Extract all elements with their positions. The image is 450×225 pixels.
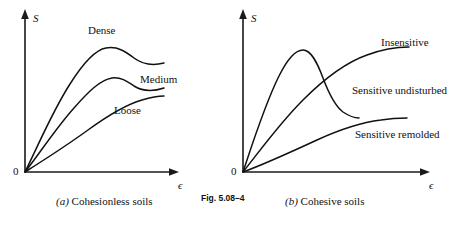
panel-a-caption-letter: (a): [56, 195, 69, 207]
curve-label-sensitive-undisturbed: Sensitive undisturbed: [352, 85, 447, 96]
curve-loose: [25, 96, 164, 172]
panel-a-caption: (a) Cohesionless soils: [56, 196, 153, 207]
panel-b-caption-text: Cohesive soils: [301, 195, 365, 207]
figure-number-label: Fig. 5.08–4: [201, 194, 244, 203]
x-axis-arrowhead: [420, 168, 430, 176]
y-axis-label: S: [33, 13, 39, 24]
panel-b-plot: [225, 0, 450, 225]
panel-cohesive-soils: S ϵ 0 Insensitive Sensitive undisturbed …: [225, 0, 450, 225]
curve-label-sensitive-remolded: Sensitive remolded: [355, 129, 440, 140]
x-axis-arrowhead: [169, 168, 179, 176]
x-axis-label: ϵ: [429, 180, 433, 191]
curve-label-medium: Medium: [140, 74, 177, 85]
panel-cohesionless-soils: S ϵ 0 Dense Medium Loose (a) Cohesionles…: [0, 0, 225, 225]
x-axis-label: ϵ: [178, 180, 182, 191]
panel-b-caption-letter: (b): [285, 195, 298, 207]
origin-label: 0: [13, 166, 19, 177]
curve-insensitive: [243, 47, 409, 172]
y-axis-arrowhead: [21, 9, 29, 19]
origin-label: 0: [231, 166, 237, 177]
panel-b-caption: (b) Cohesive soils: [285, 196, 364, 207]
curve-dense: [25, 48, 164, 172]
y-axis-label: S: [251, 13, 257, 24]
curve-sensitive-remolded: [243, 118, 407, 172]
curve-label-insensitive: Insensitive: [381, 37, 429, 48]
panel-a-caption-text: Cohesionless soils: [72, 195, 153, 207]
curve-label-dense: Dense: [88, 25, 116, 36]
y-axis-arrowhead: [239, 9, 247, 19]
curve-label-loose: Loose: [114, 105, 141, 116]
figure-container: S ϵ 0 Dense Medium Loose (a) Cohesionles…: [0, 0, 450, 225]
